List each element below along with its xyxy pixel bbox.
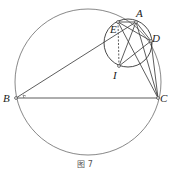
point-B xyxy=(15,97,18,100)
label-D: D xyxy=(152,33,160,44)
geometry-figure xyxy=(0,0,170,175)
label-C: C xyxy=(160,93,167,104)
segment-DC xyxy=(151,41,158,98)
angle-mark-B xyxy=(23,95,26,98)
figure-caption: 图 7 xyxy=(0,158,170,169)
point-A xyxy=(135,21,138,24)
circumcircle xyxy=(15,9,161,155)
point-I xyxy=(118,65,121,68)
segment-EI-dashed xyxy=(118,22,119,66)
label-B: B xyxy=(3,93,10,104)
label-A: A xyxy=(136,8,143,19)
label-I: I xyxy=(113,70,117,81)
point-E xyxy=(117,21,120,24)
point-C xyxy=(157,97,160,100)
label-E: E xyxy=(110,24,117,35)
